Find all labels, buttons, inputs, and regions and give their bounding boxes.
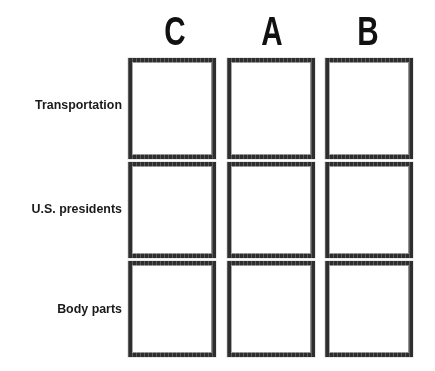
column-header-c: C [139, 8, 210, 54]
column-header-b: B [332, 8, 403, 54]
worksheet-page: C A B Transportation U.S. presidents Bod… [0, 0, 435, 371]
answer-box-us-presidents-b[interactable] [325, 162, 413, 258]
answer-box-body-parts-b[interactable] [325, 261, 413, 357]
row-label-us-presidents: U.S. presidents [10, 201, 122, 217]
answer-box-transportation-b[interactable] [325, 58, 413, 159]
answer-box-transportation-a[interactable] [227, 58, 315, 159]
answer-box-us-presidents-a[interactable] [227, 162, 315, 258]
answer-box-transportation-c[interactable] [128, 58, 216, 159]
answer-box-us-presidents-c[interactable] [128, 162, 216, 258]
answer-box-body-parts-a[interactable] [227, 261, 315, 357]
answer-box-body-parts-c[interactable] [128, 261, 216, 357]
row-label-body-parts: Body parts [10, 301, 122, 317]
row-label-transportation: Transportation [10, 97, 122, 113]
column-header-a: A [236, 8, 307, 54]
